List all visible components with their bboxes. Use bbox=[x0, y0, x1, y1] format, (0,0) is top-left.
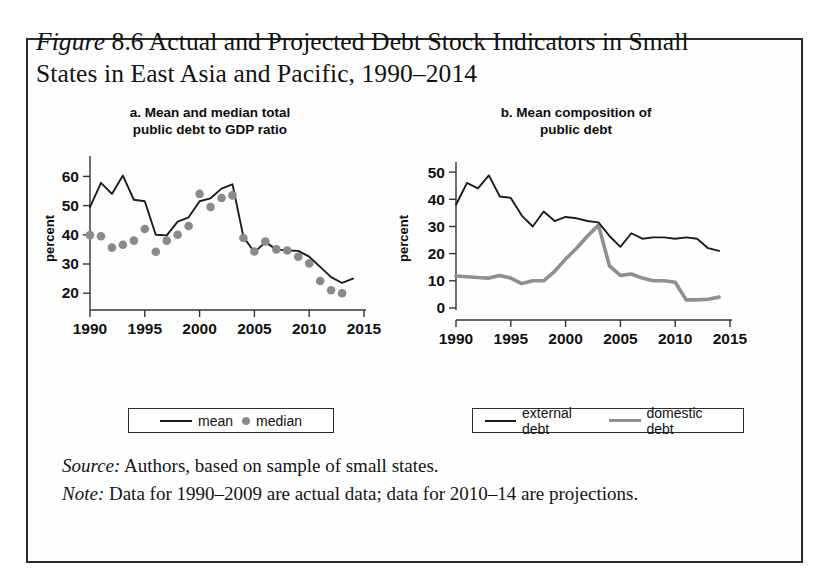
panel-a-median-point bbox=[184, 222, 193, 231]
panel-a-xtick-1995: 1995 bbox=[128, 320, 163, 337]
figure-label: Figure bbox=[36, 27, 105, 56]
source-text: Authors, based on sample of small states… bbox=[120, 455, 438, 476]
legend-label-mean: mean bbox=[198, 413, 233, 429]
panel-a-heading: a. Mean and median total public debt to … bbox=[30, 104, 390, 138]
panel-b-xtick-2005: 2005 bbox=[603, 330, 638, 347]
footnotes: Source: Authors, based on sample of smal… bbox=[62, 452, 702, 507]
panel-a-median-point bbox=[195, 190, 204, 199]
panel-b-y-axis: 50 40 30 20 10 0 bbox=[428, 162, 456, 316]
panel-a-median-point bbox=[217, 194, 226, 203]
panel-a-median-point bbox=[151, 247, 160, 256]
domestic-debt-line-swatch-icon bbox=[609, 419, 640, 422]
panel-a-median-point bbox=[294, 252, 303, 261]
panel-a-y-axis-label: percent bbox=[42, 215, 57, 262]
panel-a-median-point bbox=[272, 245, 281, 254]
panel-a-xtick-1990: 1990 bbox=[73, 320, 107, 337]
panel-a-ytick-20: 20 bbox=[62, 284, 79, 301]
panel-a-ytick-40: 40 bbox=[62, 226, 79, 243]
panel-b-xtick-2015: 2015 bbox=[713, 330, 748, 347]
panel-a-median-point bbox=[316, 277, 325, 286]
panel-b: b. Mean composition of public debt perce… bbox=[396, 104, 756, 404]
panel-b-ytick-10: 10 bbox=[428, 272, 445, 289]
panel-b-plot: percent 50 40 30 20 10 0 bbox=[396, 150, 756, 360]
panel-a-median-point bbox=[261, 237, 270, 246]
panel-a-median-point bbox=[305, 259, 314, 268]
panel-a-median-point bbox=[86, 231, 95, 240]
legend-label-external-debt: external debt bbox=[522, 405, 600, 437]
panel-a-x-axis: 1990 1995 2000 2005 2010 2015 bbox=[73, 310, 382, 337]
legend-item-domestic-debt: domestic debt bbox=[609, 405, 731, 437]
panel-b-x-axis: 1990 1995 2000 2005 2010 2015 bbox=[439, 320, 748, 347]
panel-a-median-point bbox=[327, 286, 336, 295]
panel-a-heading-line2: public debt to GDP ratio bbox=[133, 122, 287, 137]
panel-a-median-point bbox=[338, 289, 347, 298]
panel-b-svg: 50 40 30 20 10 0 1990 1995 2000 2005 201… bbox=[396, 150, 756, 360]
panel-a-xtick-2015: 2015 bbox=[347, 320, 382, 337]
panel-a-ytick-50: 50 bbox=[62, 197, 79, 214]
panel-a-median-point bbox=[108, 243, 117, 252]
panel-a-median-point bbox=[206, 203, 215, 212]
figure-number-value: 8.6 bbox=[112, 27, 144, 56]
panel-a-median-point bbox=[228, 191, 237, 200]
panel-a: a. Mean and median total public debt to … bbox=[30, 104, 390, 404]
legend-label-median: median bbox=[256, 413, 302, 429]
page-title: Figure 8.6 Actual and Projected Debt Sto… bbox=[36, 26, 726, 90]
panel-a-median-point bbox=[162, 236, 171, 245]
panel-b-heading-line1: b. Mean composition of bbox=[501, 105, 652, 120]
panel-b-legend: external debt domestic debt bbox=[472, 408, 744, 433]
panel-a-median-point bbox=[239, 234, 248, 243]
panel-a-xtick-2010: 2010 bbox=[292, 320, 326, 337]
panel-b-heading-line2: public debt bbox=[540, 122, 612, 137]
panel-a-median-point bbox=[119, 240, 128, 249]
panel-a-xtick-2005: 2005 bbox=[237, 320, 272, 337]
panel-a-median-point bbox=[250, 247, 259, 256]
panel-b-ytick-20: 20 bbox=[428, 245, 445, 262]
external-debt-line-swatch-icon bbox=[485, 420, 516, 422]
panel-b-domestic-debt-line bbox=[456, 225, 719, 300]
panel-a-mean-line bbox=[90, 176, 353, 283]
legend-item-median: median bbox=[242, 413, 302, 429]
note-label: Note: bbox=[62, 483, 104, 504]
panel-b-ytick-30: 30 bbox=[428, 218, 445, 235]
median-dot-swatch-icon bbox=[242, 417, 250, 425]
panel-b-ytick-50: 50 bbox=[428, 164, 445, 181]
panel-a-median-dots bbox=[86, 190, 347, 298]
panel-a-ytick-30: 30 bbox=[62, 255, 79, 272]
panel-a-heading-line1: a. Mean and median total bbox=[130, 105, 291, 120]
panel-a-median-point bbox=[130, 236, 139, 245]
note-text: Data for 1990–2009 are actual data; data… bbox=[104, 483, 638, 504]
mean-line-swatch-icon bbox=[160, 420, 192, 422]
panel-b-y-axis-label: percent bbox=[396, 215, 411, 262]
panel-b-ytick-0: 0 bbox=[436, 299, 445, 316]
panel-a-svg: 60 50 40 30 20 1990 1995 2000 2005 2010 … bbox=[30, 150, 390, 360]
legend-label-domestic-debt: domestic debt bbox=[647, 405, 732, 437]
panel-b-xtick-1990: 1990 bbox=[439, 330, 473, 347]
panel-b-external-debt-line bbox=[456, 175, 719, 251]
source-label: Source: bbox=[62, 455, 120, 476]
panel-a-ytick-60: 60 bbox=[62, 168, 79, 185]
panel-a-median-point bbox=[141, 225, 150, 234]
panel-a-y-axis: 60 50 40 30 20 bbox=[62, 156, 90, 310]
panel-b-xtick-2010: 2010 bbox=[658, 330, 692, 347]
panel-a-median-point bbox=[173, 231, 182, 240]
panel-a-plot: percent 60 50 40 30 20 bbox=[30, 150, 390, 360]
panel-b-xtick-2000: 2000 bbox=[548, 330, 582, 347]
panel-b-heading: b. Mean composition of public debt bbox=[396, 104, 756, 138]
note-line: Note: Data for 1990–2009 are actual data… bbox=[62, 480, 702, 507]
panel-b-xtick-1995: 1995 bbox=[494, 330, 529, 347]
panel-a-legend: mean median bbox=[128, 408, 334, 433]
panel-a-xtick-2000: 2000 bbox=[182, 320, 216, 337]
panel-a-median-point bbox=[97, 232, 106, 241]
panel-a-median-point bbox=[283, 246, 292, 255]
legend-item-external-debt: external debt bbox=[485, 405, 600, 437]
panel-b-ytick-40: 40 bbox=[428, 191, 445, 208]
legend-item-mean: mean bbox=[160, 413, 233, 429]
source-line: Source: Authors, based on sample of smal… bbox=[62, 452, 702, 479]
